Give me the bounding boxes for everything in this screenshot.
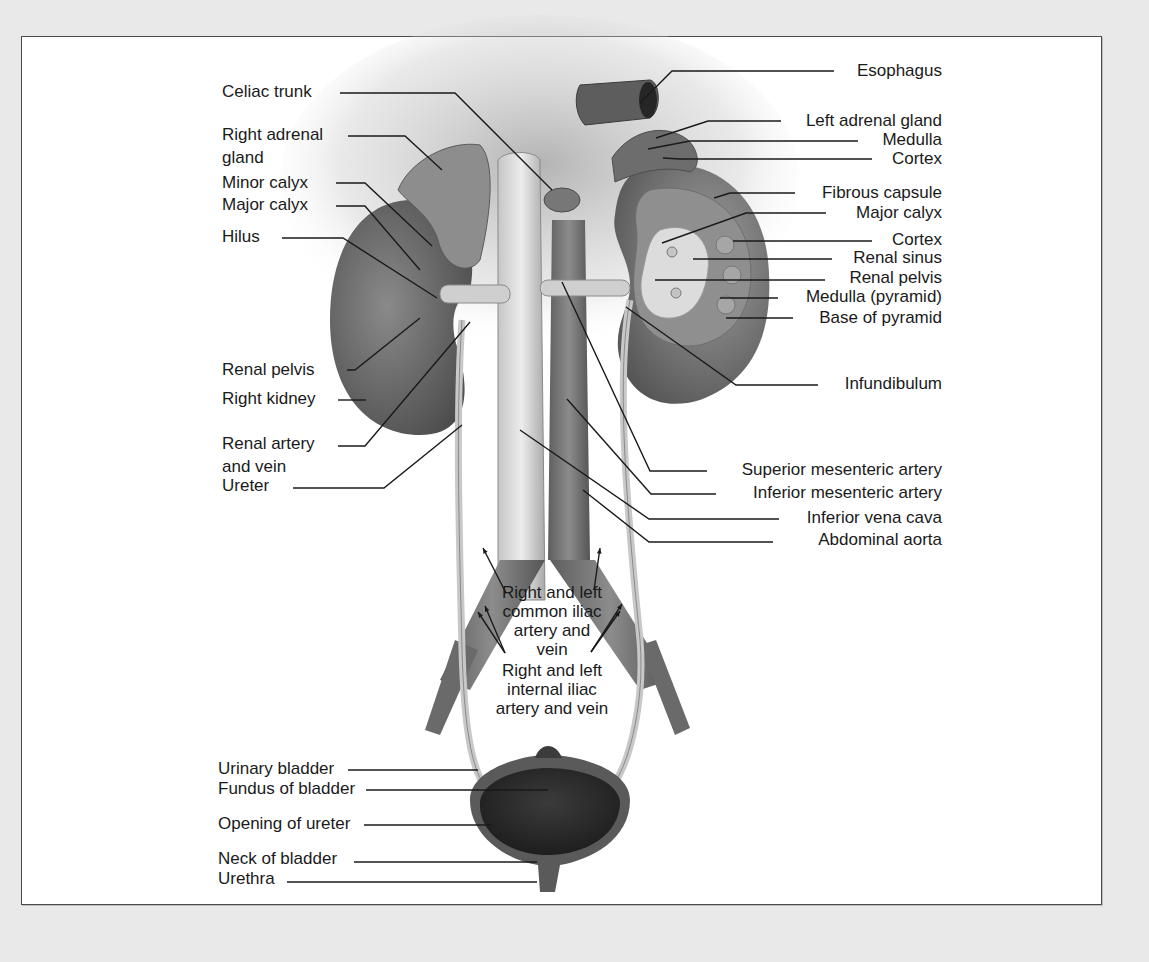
leader-abdominal-aorta xyxy=(583,490,773,542)
leader-inferior-mesenteric-artery xyxy=(567,399,716,494)
label-inferior-mesenteric-artery: Inferior mesenteric artery xyxy=(753,483,942,502)
label-hilus: Hilus xyxy=(222,227,260,246)
label-common-iliac-line2: common iliac xyxy=(502,602,602,621)
label-neck-of-bladder: Neck of bladder xyxy=(218,849,337,868)
label-fibrous-capsule: Fibrous capsule xyxy=(822,183,942,202)
label-minor-calyx: Minor calyx xyxy=(222,173,308,192)
label-base-of-pyramid: Base of pyramid xyxy=(819,308,942,327)
label-renal-artery-and-vein-line2: and vein xyxy=(222,457,286,476)
label-fundus-of-bladder: Fundus of bladder xyxy=(218,779,355,798)
label-inferior-vena-cava: Inferior vena cava xyxy=(807,508,943,527)
label-internal-iliac-line1: Right and left xyxy=(502,661,602,680)
label-urethra: Urethra xyxy=(218,869,275,888)
inferior-vena-cava-shape xyxy=(498,153,545,601)
label-infundibulum: Infundibulum xyxy=(845,374,942,393)
urinary-system-diagram: Celiac trunkRight adrenalglandMinor caly… xyxy=(0,0,1149,962)
leader-ureter xyxy=(293,425,462,488)
label-renal-sinus: Renal sinus xyxy=(853,248,942,267)
label-cortex-adrenal: Cortex xyxy=(892,149,943,168)
label-medulla-pyramid: Medulla (pyramid) xyxy=(806,287,942,306)
label-common-iliac-line3: artery and xyxy=(514,621,591,640)
label-opening-of-ureter: Opening of ureter xyxy=(218,814,351,833)
label-right-kidney: Right kidney xyxy=(222,389,316,408)
label-renal-pelvis-right: Renal pelvis xyxy=(222,360,315,379)
label-ureter: Ureter xyxy=(222,476,270,495)
right-renal-vessels xyxy=(440,285,510,303)
label-right-adrenal-gland-line2: gland xyxy=(222,148,264,167)
label-celiac-trunk: Celiac trunk xyxy=(222,82,312,101)
label-renal-artery-and-vein: Renal artery xyxy=(222,434,315,453)
label-esophagus: Esophagus xyxy=(857,61,942,80)
label-right-adrenal-gland: Right adrenal xyxy=(222,125,323,144)
label-major-calyx-left: Major calyx xyxy=(856,203,942,222)
label-common-iliac-line4: vein xyxy=(536,640,567,659)
label-cortex-kidney: Cortex xyxy=(892,230,943,249)
bladder-apex xyxy=(535,746,562,758)
abdominal-aorta-shape xyxy=(548,220,590,560)
esophagus-opening xyxy=(639,82,657,118)
label-abdominal-aorta: Abdominal aorta xyxy=(818,530,942,549)
right-ureter xyxy=(458,320,482,782)
label-urinary-bladder: Urinary bladder xyxy=(218,759,335,778)
label-major-calyx-right: Major calyx xyxy=(222,195,308,214)
label-common-iliac-line1: Right and left xyxy=(502,583,602,602)
label-superior-mesenteric-artery: Superior mesenteric artery xyxy=(742,460,943,479)
label-internal-iliac-line2: internal iliac xyxy=(507,680,597,699)
label-medulla-adrenal: Medulla xyxy=(882,130,942,149)
left-renal-vessels xyxy=(540,280,630,296)
label-renal-pelvis-left: Renal pelvis xyxy=(849,268,942,287)
label-left-adrenal-gland: Left adrenal gland xyxy=(806,111,942,130)
label-internal-iliac-line3: artery and vein xyxy=(496,699,608,718)
celiac-trunk-shape xyxy=(544,188,580,212)
